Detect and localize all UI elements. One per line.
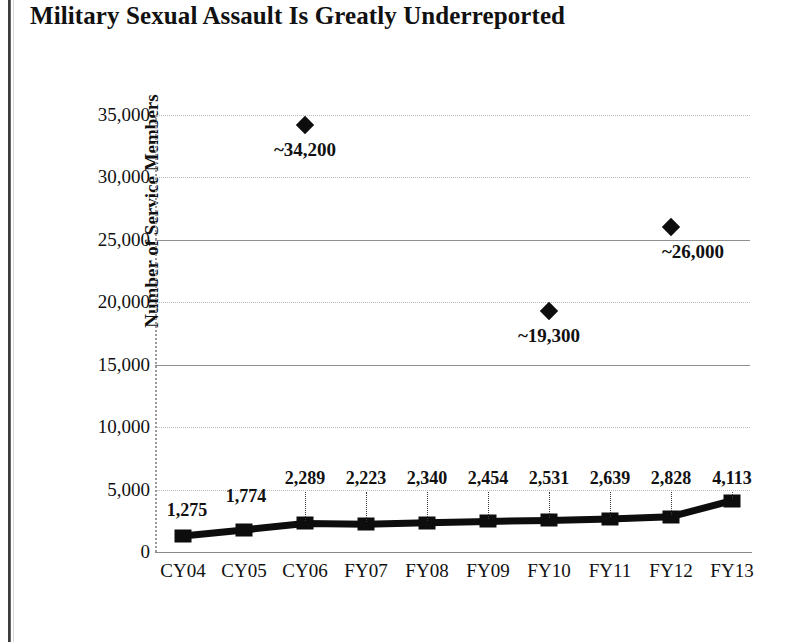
- plot-area: 1,2751,7742,2892,2232,3402,4542,5312,639…: [155, 115, 750, 552]
- data-label-CY04: 1,275: [167, 500, 208, 521]
- gridline-30000: [155, 177, 750, 178]
- data-label-FY07: 2,223: [346, 468, 387, 489]
- leader-line-FY09: [488, 492, 489, 520]
- x-tick-label-CY06: CY06: [282, 560, 327, 582]
- marker-estimated-FY12: [662, 218, 680, 236]
- marker-reported-CY04: [175, 530, 192, 543]
- data-label-FY10: 2,531: [529, 468, 570, 489]
- gridline-15000: [155, 365, 750, 366]
- leader-line-CY06: [305, 492, 306, 522]
- y-tick-label-25000: 25,000: [0, 229, 160, 251]
- marker-estimated-CY06: [296, 116, 314, 134]
- y-tick-label-35000: 35,000: [0, 104, 160, 126]
- leader-line-FY13: [732, 492, 733, 499]
- chart-figure: Number of Service Members 05,00010,00015…: [0, 0, 794, 642]
- leader-line-FY07: [366, 492, 367, 523]
- data-label-FY12: 2,828: [651, 468, 692, 489]
- estimate-label-CY06: ~34,200: [274, 139, 336, 161]
- data-label-CY06: 2,289: [285, 468, 326, 489]
- data-label-FY08: 2,340: [407, 468, 448, 489]
- marker-estimated-FY10: [540, 302, 558, 320]
- data-label-CY05: 1,774: [226, 486, 267, 507]
- estimate-label-FY12: ~26,000: [662, 241, 724, 263]
- leader-line-FY12: [671, 492, 672, 515]
- leader-line-FY08: [427, 492, 428, 521]
- y-tick-label-15000: 15,000: [0, 354, 160, 376]
- x-tick-label-FY11: FY11: [589, 560, 632, 582]
- gridline-20000: [155, 302, 750, 303]
- data-label-FY13: 4,113: [712, 468, 752, 489]
- leader-line-FY11: [610, 492, 611, 517]
- y-tick-label-20000: 20,000: [0, 291, 160, 313]
- y-tick-label-30000: 30,000: [0, 166, 160, 188]
- gridline-25000: [155, 240, 750, 241]
- y-tick-label-0: 0: [0, 541, 160, 563]
- x-tick-label-FY07: FY07: [344, 560, 387, 582]
- y-tick-label-10000: 10,000: [0, 416, 160, 438]
- x-tick-label-FY09: FY09: [466, 560, 509, 582]
- data-label-FY09: 2,454: [468, 468, 509, 489]
- x-tick-label-FY08: FY08: [405, 560, 448, 582]
- leader-line-FY10: [549, 492, 550, 519]
- x-tick-label-CY04: CY04: [160, 560, 205, 582]
- y-axis-line: [155, 115, 157, 552]
- gridline-10000: [155, 427, 750, 428]
- gridline-35000: [155, 115, 750, 116]
- y-tick-label-5000: 5,000: [0, 479, 160, 501]
- marker-reported-CY05: [236, 523, 253, 536]
- x-tick-label-FY12: FY12: [649, 560, 692, 582]
- x-axis-line: [155, 552, 752, 553]
- x-tick-label-FY13: FY13: [710, 560, 753, 582]
- x-tick-label-CY05: CY05: [221, 560, 266, 582]
- estimate-label-FY10: ~19,300: [518, 325, 580, 347]
- x-tick-label-FY10: FY10: [527, 560, 570, 582]
- data-label-FY11: 2,639: [590, 468, 631, 489]
